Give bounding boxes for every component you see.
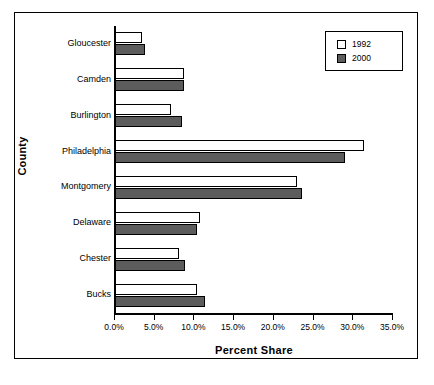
category-group: Chester — [115, 241, 392, 277]
category-group: Bucks — [115, 277, 392, 313]
bar-2000-montgomery — [115, 188, 302, 199]
legend-label-2000: 2000 — [352, 53, 371, 63]
legend-swatch-1992-icon — [337, 40, 346, 49]
y-axis-category-label: Delaware — [15, 217, 111, 227]
legend-item-1992: 1992 — [337, 37, 402, 51]
x-axis-tick — [193, 314, 194, 320]
y-axis-category-label: Camden — [15, 74, 111, 84]
category-group: Delaware — [115, 205, 392, 241]
x-axis-tick-label: 15.0% — [213, 322, 253, 332]
bar-2000-gloucester — [115, 44, 145, 55]
x-axis-tick-label: 25.0% — [293, 322, 333, 332]
bar-2000-philadelphia — [115, 152, 345, 163]
y-axis-category-label: Philadelphia — [15, 146, 111, 156]
x-axis-tick — [154, 314, 155, 320]
legend-swatch-2000-icon — [337, 54, 346, 63]
bar-1992-bucks — [115, 284, 197, 295]
bar-1992-philadelphia — [115, 140, 364, 151]
x-axis-tick — [313, 314, 314, 320]
bar-1992-gloucester — [115, 32, 142, 43]
category-group: Montgomery — [115, 170, 392, 206]
y-axis-category-label: Bucks — [15, 289, 111, 299]
category-group: Philadelphia — [115, 134, 392, 170]
bar-1992-chester — [115, 248, 179, 259]
x-axis-title: Percent Share — [115, 344, 393, 356]
category-group: Burlington — [115, 98, 392, 134]
y-axis-category-label: Gloucester — [15, 38, 111, 48]
bar-2000-delaware — [115, 224, 197, 235]
x-axis-line — [114, 313, 393, 315]
y-axis-category-label: Burlington — [15, 110, 111, 120]
x-axis-tick-label: 5.0% — [134, 322, 174, 332]
x-axis-tick-label: 0.0% — [94, 322, 134, 332]
x-axis-tick — [114, 314, 115, 320]
x-axis-tick — [233, 314, 234, 320]
y-axis-category-label: Chester — [15, 253, 111, 263]
x-axis-tick — [352, 314, 353, 320]
x-axis-tick-label: 20.0% — [253, 322, 293, 332]
bar-2000-burlington — [115, 116, 182, 127]
bar-chart-figure: County Percent Share 0.0%5.0%10.0%15.0%2… — [0, 0, 434, 385]
x-axis-tick-label: 30.0% — [332, 322, 372, 332]
legend-label-1992: 1992 — [352, 39, 371, 49]
chart-legend: 1992 2000 — [325, 31, 403, 71]
bar-2000-bucks — [115, 296, 205, 307]
x-axis-tick-label: 35.0% — [372, 322, 412, 332]
bar-1992-camden — [115, 68, 184, 79]
bar-2000-chester — [115, 260, 185, 271]
x-axis-tick — [392, 314, 393, 320]
bar-1992-burlington — [115, 104, 171, 115]
bar-1992-delaware — [115, 212, 200, 223]
y-axis-category-label: Montgomery — [15, 181, 111, 191]
x-axis-tick — [273, 314, 274, 320]
bar-1992-montgomery — [115, 176, 297, 187]
legend-item-2000: 2000 — [337, 51, 402, 65]
bar-2000-camden — [115, 80, 184, 91]
x-axis-tick-label: 10.0% — [173, 322, 213, 332]
